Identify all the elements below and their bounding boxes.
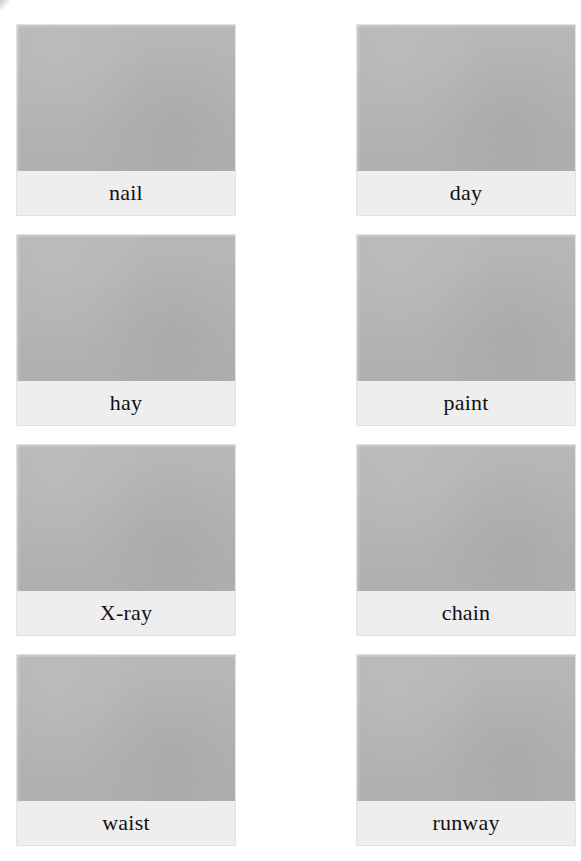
card-label: chain xyxy=(442,602,491,624)
card-label-band: runway xyxy=(357,801,575,845)
word-card[interactable]: X-ray xyxy=(16,444,236,636)
card-image-placeholder xyxy=(17,25,235,171)
card-label-band: X-ray xyxy=(17,591,235,635)
card-label-band: paint xyxy=(357,381,575,425)
card-image-placeholder xyxy=(357,25,575,171)
word-card[interactable]: paint xyxy=(356,234,576,426)
card-grid: naildayhaypaintX-raychainwaistrunway xyxy=(16,24,566,846)
card-label: nail xyxy=(109,182,143,204)
card-image-placeholder xyxy=(357,235,575,381)
card-label: hay xyxy=(110,392,142,414)
card-label-band: hay xyxy=(17,381,235,425)
word-card[interactable]: nail xyxy=(16,24,236,216)
card-label-band: nail xyxy=(17,171,235,215)
word-card[interactable]: runway xyxy=(356,654,576,846)
card-label: runway xyxy=(432,812,499,834)
scan-artifact xyxy=(0,0,9,9)
word-card[interactable]: day xyxy=(356,24,576,216)
card-label: paint xyxy=(444,392,489,414)
card-label: X-ray xyxy=(100,602,152,624)
card-image-placeholder xyxy=(357,445,575,591)
card-label: waist xyxy=(102,812,149,834)
card-label: day xyxy=(450,182,482,204)
word-card[interactable]: hay xyxy=(16,234,236,426)
card-image-placeholder xyxy=(17,235,235,381)
card-label-band: chain xyxy=(357,591,575,635)
card-image-placeholder xyxy=(17,655,235,801)
word-card[interactable]: waist xyxy=(16,654,236,846)
word-card[interactable]: chain xyxy=(356,444,576,636)
card-label-band: waist xyxy=(17,801,235,845)
card-image-placeholder xyxy=(357,655,575,801)
card-label-band: day xyxy=(357,171,575,215)
card-image-placeholder xyxy=(17,445,235,591)
